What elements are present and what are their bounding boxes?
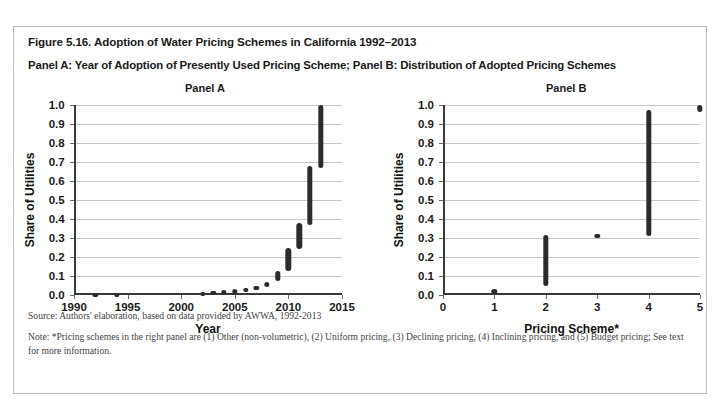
- data-mark: [492, 289, 497, 294]
- y-axis-tick-label: 0.7: [418, 156, 434, 168]
- x-axis-tick: [700, 295, 701, 299]
- figure-subtitle: Panel A: Year of Adoption of Presently U…: [28, 59, 616, 71]
- y-axis-tick-label: 0.8: [418, 137, 434, 149]
- panel-a-y-axis-title: Share of Utilities: [23, 153, 37, 248]
- gridline: [74, 124, 342, 125]
- gridline: [74, 143, 342, 144]
- y-axis-tick-label: 0.0: [49, 289, 65, 301]
- y-axis-tick-label: 0.4: [49, 213, 65, 225]
- y-axis-tick-label: 0.3: [49, 232, 65, 244]
- y-axis-tick-label: 0.7: [49, 156, 65, 168]
- panel-a-title: Panel A: [185, 82, 225, 94]
- data-mark: [275, 271, 280, 281]
- data-mark: [307, 166, 312, 225]
- x-axis-tick: [128, 295, 129, 299]
- gridline: [443, 143, 700, 144]
- gridline: [443, 276, 700, 277]
- gridline: [443, 162, 700, 163]
- x-axis-tick: [74, 295, 75, 299]
- gridline: [74, 162, 342, 163]
- x-axis-tick: [649, 295, 650, 299]
- data-mark: [697, 105, 702, 112]
- panel-b-title: Panel B: [546, 82, 586, 94]
- gridline: [443, 181, 700, 182]
- x-axis-tick: [494, 295, 495, 299]
- gridline: [74, 257, 342, 258]
- data-mark: [93, 293, 98, 298]
- data-mark: [296, 223, 301, 249]
- y-axis-tick-label: 0.5: [49, 194, 65, 206]
- gridline: [443, 257, 700, 258]
- y-axis-tick-label: 0.6: [49, 175, 65, 187]
- data-mark: [543, 235, 548, 286]
- y-axis-tick-label: 0.3: [418, 232, 434, 244]
- data-mark: [243, 288, 248, 293]
- panel-b-y-axis-title: Share of Utilities: [392, 153, 406, 248]
- data-mark: [114, 293, 119, 298]
- y-axis-tick-label: 0.0: [418, 289, 434, 301]
- gridline: [74, 181, 342, 182]
- y-axis-line: [74, 105, 76, 295]
- gridline: [74, 238, 342, 239]
- x-axis-tick-label: 5: [697, 301, 703, 313]
- y-axis-tick-label: 0.6: [418, 175, 434, 187]
- panel-b-plot-area: 0.00.10.20.30.40.50.60.70.80.91.0012345: [443, 105, 700, 295]
- data-mark: [221, 290, 226, 295]
- data-mark: [211, 291, 216, 296]
- panel-a-plot: 0.00.10.20.30.40.50.60.70.80.91.01990199…: [74, 105, 342, 295]
- gridline: [74, 276, 342, 277]
- source-note: Source: Authors' elaboration, based on d…: [28, 309, 692, 323]
- footnote: Note: *Pricing schemes in the right pane…: [28, 330, 692, 357]
- y-axis-tick-label: 0.2: [49, 251, 65, 263]
- data-mark: [200, 292, 205, 297]
- gridline: [74, 219, 342, 220]
- y-axis-tick-label: 0.2: [418, 251, 434, 263]
- gridline: [443, 105, 700, 106]
- gridline: [443, 238, 700, 239]
- x-axis-line: [443, 293, 700, 295]
- gridline: [74, 105, 342, 106]
- data-mark: [646, 110, 651, 235]
- data-mark: [232, 289, 237, 294]
- gridline: [443, 219, 700, 220]
- y-axis-tick-label: 0.9: [49, 118, 65, 130]
- x-axis-tick: [546, 295, 547, 299]
- x-axis-tick: [235, 295, 236, 299]
- x-axis-tick: [288, 295, 289, 299]
- y-axis-tick-label: 0.5: [418, 194, 434, 206]
- figure-title: Figure 5.16. Adoption of Water Pricing S…: [28, 35, 416, 48]
- panel-a-plot-area: 0.00.10.20.30.40.50.60.70.80.91.01990199…: [74, 105, 342, 295]
- x-axis-tick: [342, 295, 343, 299]
- data-mark: [318, 105, 323, 168]
- figure-container: Figure 5.16. Adoption of Water Pricing S…: [13, 26, 707, 394]
- gridline: [443, 200, 700, 201]
- y-axis-line: [443, 105, 445, 295]
- data-mark: [594, 234, 599, 239]
- data-mark: [264, 282, 269, 287]
- y-axis-tick-label: 0.9: [418, 118, 434, 130]
- data-mark: [254, 286, 259, 291]
- x-axis-tick: [443, 295, 444, 299]
- x-axis-tick: [181, 295, 182, 299]
- y-axis-tick-label: 1.0: [418, 99, 434, 111]
- panel-b-plot: 0.00.10.20.30.40.50.60.70.80.91.0012345 …: [443, 105, 700, 295]
- x-axis-tick: [597, 295, 598, 299]
- data-mark: [286, 248, 291, 271]
- y-axis-tick-label: 0.4: [418, 213, 434, 225]
- gridline: [443, 124, 700, 125]
- y-axis-tick-label: 0.1: [49, 270, 65, 282]
- gridline: [74, 200, 342, 201]
- y-axis-tick-label: 1.0: [49, 99, 65, 111]
- y-axis-tick-label: 0.8: [49, 137, 65, 149]
- y-axis-tick-label: 0.1: [418, 270, 434, 282]
